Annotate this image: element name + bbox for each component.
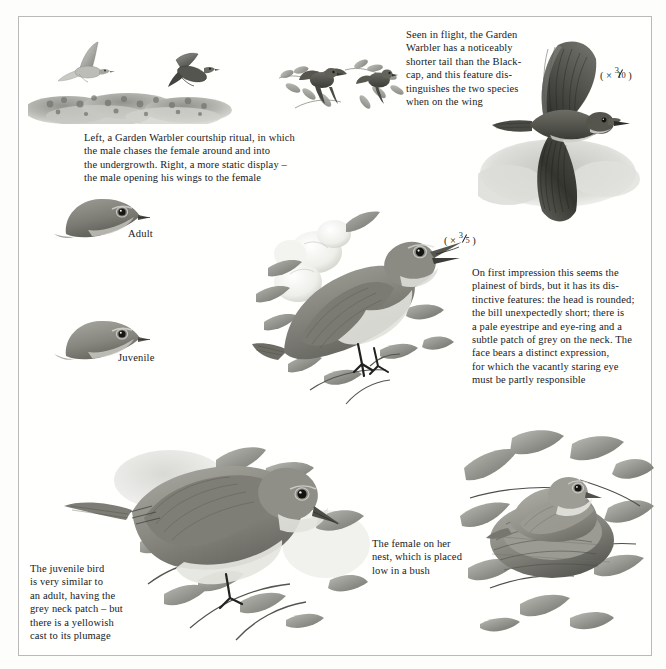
flying-bird-left xyxy=(58,42,115,82)
head xyxy=(586,112,630,134)
scale-fraction: 35 xyxy=(459,233,470,244)
caption-courtship: Left, a Garden Warbler courtship ritual,… xyxy=(84,131,354,185)
scale-perched-bird: ( × 35 ) xyxy=(444,233,476,246)
display-pair-illustration xyxy=(275,30,410,125)
upper-wing xyxy=(542,41,597,119)
perched-singing-illustration xyxy=(250,190,465,420)
branches xyxy=(310,354,400,404)
display-bird-left xyxy=(299,68,347,104)
scale-flight-bird: ( × 310 ) xyxy=(600,68,632,81)
tail xyxy=(492,120,532,132)
label-adult: Adult xyxy=(128,228,153,239)
scale-denominator: 10 xyxy=(617,71,625,80)
female-on-nest-illustration xyxy=(460,428,655,643)
plate-page: Left, a Garden Warbler courtship ritual,… xyxy=(0,0,666,669)
scale-suffix: ) xyxy=(470,235,476,246)
caption-juvenile-notes: The juvenile bird is very similar to an … xyxy=(30,562,180,642)
head-adult-illustration xyxy=(54,190,154,248)
caption-plumage-notes: On first impression this seems the plain… xyxy=(472,266,652,387)
scale-numerator: 3 xyxy=(459,231,463,240)
caption-nest: The female on her nest, which is placed … xyxy=(372,537,502,577)
flying-bird-right xyxy=(168,53,220,87)
scale-denominator: 5 xyxy=(465,236,469,245)
scale-suffix: ) xyxy=(626,70,632,81)
undergrowth xyxy=(28,93,232,124)
flight-profile-illustration xyxy=(478,33,646,233)
scale-fraction: 310 xyxy=(615,68,626,79)
label-juvenile: Juvenile xyxy=(118,352,155,363)
scale-prefix: ( × xyxy=(444,235,459,246)
scale-prefix: ( × xyxy=(600,70,615,81)
